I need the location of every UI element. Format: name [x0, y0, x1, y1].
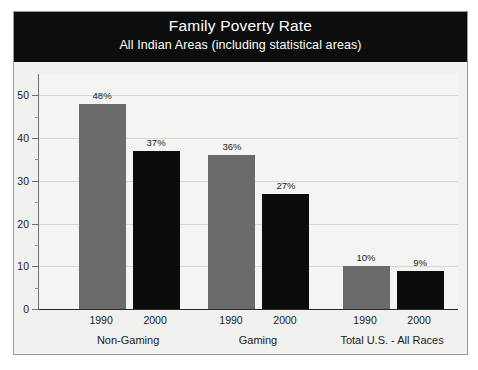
page-title: Family Poverty Rate	[14, 16, 467, 36]
bar-value-label: 36%	[222, 141, 241, 152]
y-axis-tick	[32, 138, 39, 139]
y-axis-minor-tick	[35, 159, 39, 160]
bar	[133, 151, 180, 309]
y-axis-label: 50	[17, 89, 29, 101]
x-axis-tick-label: 1990	[89, 314, 112, 326]
y-axis-tick	[32, 95, 39, 96]
y-axis-tick	[32, 181, 39, 182]
bar	[343, 266, 390, 309]
bar	[262, 194, 309, 309]
x-axis-group-label: Gaming	[239, 334, 278, 346]
y-axis-tick	[32, 266, 39, 267]
y-axis-tick	[32, 309, 39, 310]
bar-value-label: 27%	[276, 180, 295, 191]
y-axis-label: 20	[17, 218, 29, 230]
chart-title-band: Family Poverty Rate All Indian Areas (in…	[14, 12, 467, 62]
chart-frame: Family Poverty Rate All Indian Areas (in…	[13, 11, 468, 355]
chart-subtitle: All Indian Areas (including statistical …	[14, 36, 467, 54]
x-axis-tick-label: 1990	[219, 314, 242, 326]
y-axis-minor-tick	[35, 202, 39, 203]
x-axis-tick-label: 2000	[143, 314, 166, 326]
y-axis-minor-tick	[35, 288, 39, 289]
x-axis-tick-label: 2000	[407, 314, 430, 326]
y-axis-label: 30	[17, 175, 29, 187]
bar-value-label: 9%	[413, 257, 427, 268]
plot-wrapper: 0102030405048%37%36%27%10%9% 19902000199…	[14, 62, 467, 354]
bar	[208, 155, 255, 309]
bar-value-label: 10%	[357, 252, 376, 263]
y-axis-label: 10	[17, 260, 29, 272]
plot-area: 0102030405048%37%36%27%10%9%	[38, 74, 458, 310]
x-axis-labels: 199020001990200019902000Non-GamingGaming…	[38, 312, 457, 356]
x-axis-tick-label: 2000	[273, 314, 296, 326]
x-axis-group-label: Non-Gaming	[97, 334, 159, 346]
bar	[79, 104, 126, 309]
y-axis-minor-tick	[35, 245, 39, 246]
y-axis-label: 0	[23, 303, 29, 315]
y-axis-tick	[32, 224, 39, 225]
x-axis-group-label: Total U.S. - All Races	[340, 334, 443, 346]
y-axis-minor-tick	[35, 117, 39, 118]
bar-value-label: 48%	[93, 90, 112, 101]
y-axis-label: 40	[17, 132, 29, 144]
bar	[397, 271, 444, 309]
bar-value-label: 37%	[147, 137, 166, 148]
x-axis-tick-label: 1990	[353, 314, 376, 326]
